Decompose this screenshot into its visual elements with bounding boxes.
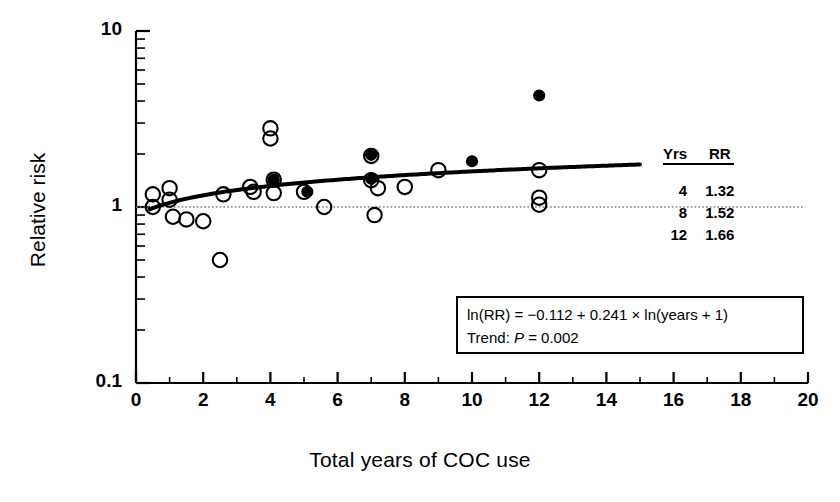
data-point-open	[532, 163, 546, 177]
x-axis-ticks	[136, 372, 808, 383]
x-tick-label: 0	[106, 389, 166, 411]
legend-cell-yrs: 4	[663, 179, 696, 201]
data-point-filled	[467, 156, 478, 167]
legend-header-rr: RR	[696, 146, 734, 164]
legend-grid: Yrs RR 41.3281.52121.66	[663, 146, 734, 245]
legend-cell-rr: 1.66	[696, 223, 734, 245]
x-axis-label: Total years of COC use	[0, 448, 840, 472]
p-value: = 0.002	[524, 329, 579, 346]
x-tick-label: 2	[173, 389, 233, 411]
data-point-open	[367, 208, 381, 222]
equation-box: ln(RR) = −0.112 + 0.241 × ln(years + 1) …	[456, 296, 804, 354]
data-point-filled	[534, 90, 545, 101]
figure-container: 1010.1 02468101214161820 Relative risk T…	[0, 0, 840, 502]
data-point-open	[213, 253, 227, 267]
data-point-open	[263, 131, 277, 145]
legend-cell-yrs: 12	[663, 223, 696, 245]
data-point-open	[246, 185, 260, 199]
legend-row: 121.66	[663, 223, 734, 245]
data-point-open	[196, 214, 210, 228]
data-point-filled	[366, 149, 377, 160]
x-tick-label: 20	[778, 389, 838, 411]
data-point-open	[166, 210, 180, 224]
equation-line-model: ln(RR) = −0.112 + 0.241 × ln(years + 1)	[467, 303, 793, 326]
x-tick-label: 4	[240, 389, 300, 411]
x-tick-label: 6	[308, 389, 368, 411]
legend-row: 81.52	[663, 201, 734, 223]
x-tick-label: 16	[644, 389, 704, 411]
data-point-filled	[302, 186, 313, 197]
data-point-open	[216, 187, 230, 201]
legend-header-row: Yrs RR	[663, 146, 734, 164]
p-symbol: P	[514, 329, 524, 346]
data-point-open	[146, 187, 160, 201]
x-tick-label: 18	[711, 389, 771, 411]
x-tick-label: 14	[576, 389, 636, 411]
legend-cell-rr: 1.52	[696, 201, 734, 223]
y-tick-label: 10	[42, 18, 122, 40]
data-point-open	[179, 212, 193, 226]
equation-model-text: ln(RR) = −0.112 + 0.241 × ln(years + 1)	[467, 306, 728, 323]
trend-label: Trend:	[467, 329, 514, 346]
legend-header-yrs: Yrs	[663, 146, 696, 164]
data-point-filled	[268, 174, 279, 185]
legend-cell-rr: 1.32	[696, 179, 734, 201]
y-tick-label: 1	[42, 194, 122, 216]
data-point-open	[162, 193, 176, 207]
y-axis-label: Relative risk	[26, 110, 50, 310]
legend-body: 41.3281.52121.66	[663, 164, 734, 245]
x-tick-label: 10	[442, 389, 502, 411]
data-point-open	[532, 198, 546, 212]
legend-table: Yrs RR 41.3281.52121.66	[663, 146, 734, 245]
x-tick-label: 12	[509, 389, 569, 411]
data-point-open	[267, 186, 281, 200]
legend-cell-yrs: 8	[663, 201, 696, 223]
y-axis-label-text: Relative risk	[26, 153, 49, 267]
x-tick-label: 8	[375, 389, 435, 411]
legend-spacer-row	[663, 164, 734, 179]
scatter-plot	[0, 0, 840, 502]
legend-row: 41.32	[663, 179, 734, 201]
data-point-open	[317, 200, 331, 214]
data-point-open	[398, 180, 412, 194]
data-point-open	[431, 163, 445, 177]
data-point-filled	[366, 173, 377, 184]
x-axis-label-text: Total years of COC use	[309, 448, 531, 471]
equation-line-trend: Trend: P = 0.002	[467, 326, 793, 349]
